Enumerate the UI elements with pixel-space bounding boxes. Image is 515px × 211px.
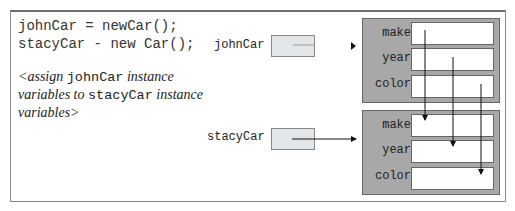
johncar-arrowhead-icon bbox=[351, 42, 356, 50]
arrows-layer bbox=[0, 0, 515, 211]
